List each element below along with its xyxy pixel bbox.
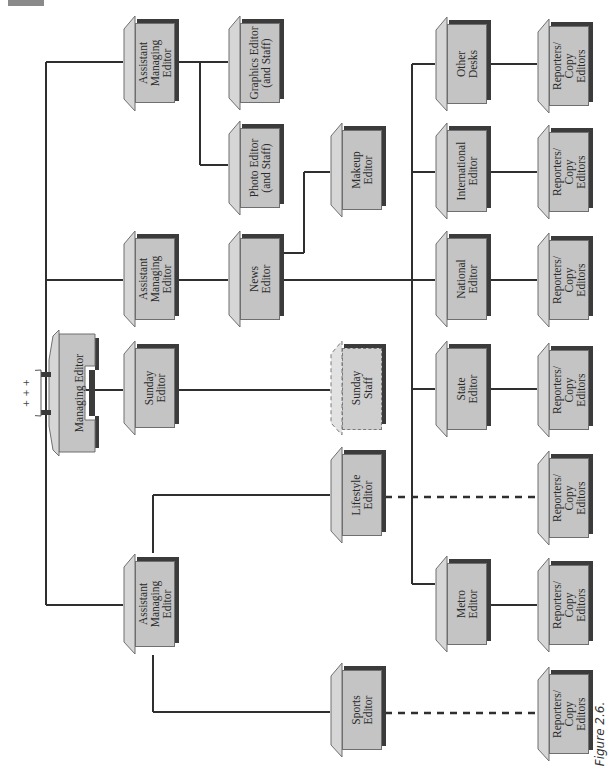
desk-side xyxy=(228,120,242,216)
node-label: State Editor xyxy=(455,375,479,404)
typewriter-icon: + + + xyxy=(11,370,41,416)
node-sports-editor[interactable]: Sports Editor xyxy=(330,662,386,758)
node-label: News Editor xyxy=(248,265,272,294)
desk-side xyxy=(330,122,344,218)
node-label: Reporters/ Copy Editors xyxy=(551,256,587,304)
node-label: Assistant Managing Editor xyxy=(137,256,173,303)
desk-side xyxy=(123,230,137,328)
node-lifestyle-editor[interactable]: Lifestyle Editor xyxy=(330,446,386,544)
node-label: Sports Editor xyxy=(350,695,374,724)
node-label: Managing Editor xyxy=(73,354,85,432)
node-label: Reporters/ Copy Editors xyxy=(551,690,587,738)
node-assistant-managing-editor-mid[interactable]: Assistant Managing Editor xyxy=(123,230,179,328)
node-photo-editor[interactable]: Photo Editor (and Staff) xyxy=(228,120,284,216)
desk-side xyxy=(537,232,551,328)
desk-side xyxy=(537,342,551,438)
desk-side xyxy=(435,555,449,653)
node-sunday-editor[interactable]: Sunday Editor xyxy=(123,340,179,436)
node-managing-editor[interactable]: + + + Managing Editor xyxy=(35,330,101,456)
desk-side xyxy=(123,340,137,436)
desk-side xyxy=(537,124,551,220)
typewriter-keys: + + + xyxy=(21,379,31,407)
node-metro-editor[interactable]: Metro Editor xyxy=(435,555,491,653)
node-assistant-managing-editor-bottom[interactable]: Assistant Managing Editor xyxy=(123,553,179,655)
node-graphics-editor[interactable]: Graphics Editor (and Staff) xyxy=(228,15,284,111)
managing-editor-desk-shape xyxy=(35,330,101,456)
node-label: Reporters/ Copy Editors xyxy=(551,148,587,196)
node-label: Reporters/ Copy Editors xyxy=(551,366,587,414)
desk-side xyxy=(435,340,449,438)
node-state-editor[interactable]: State Editor xyxy=(435,340,491,438)
node-label: National Editor xyxy=(455,259,479,299)
node-label: Makeup Editor xyxy=(350,151,374,189)
figure-caption-text: Figure 2.6. xyxy=(593,702,607,767)
desk-side xyxy=(435,122,449,220)
node-reporters-copy-editors-7[interactable]: Reporters/ Copy Editors xyxy=(537,666,593,762)
desk-side xyxy=(537,666,551,762)
node-national-editor[interactable]: National Editor xyxy=(435,230,491,328)
node-label: International Editor xyxy=(455,142,479,201)
node-label: Graphics Editor (and Staff) xyxy=(248,26,272,99)
node-reporters-copy-editors-4[interactable]: Reporters/ Copy Editors xyxy=(537,342,593,438)
desk-side xyxy=(123,15,137,112)
desk-side xyxy=(330,340,344,436)
desk-side xyxy=(330,662,344,758)
node-label: Assistant Managing Editor xyxy=(137,40,173,87)
node-reporters-copy-editors-5[interactable]: Reporters/ Copy Editors xyxy=(537,450,593,546)
node-sunday-staff[interactable]: Sunday Staff xyxy=(330,340,386,436)
desk-side xyxy=(228,230,242,328)
node-label: Metro Editor xyxy=(455,590,479,619)
desk-side xyxy=(228,15,242,111)
desk-side xyxy=(123,553,137,655)
desk-side xyxy=(537,557,551,653)
node-assistant-managing-editor-top[interactable]: Assistant Managing Editor xyxy=(123,15,179,112)
node-label: Sunday Editor xyxy=(143,371,167,406)
node-reporters-copy-editors-6[interactable]: Reporters/ Copy Editors xyxy=(537,557,593,653)
desk-side xyxy=(330,446,344,544)
desk-side xyxy=(435,230,449,328)
node-label: Reporters/ Copy Editors xyxy=(551,42,587,90)
desk-side xyxy=(537,450,551,546)
node-other-desks[interactable]: Other Desks xyxy=(435,16,491,112)
node-label: Reporters/ Copy Editors xyxy=(551,581,587,629)
node-news-editor[interactable]: News Editor xyxy=(228,230,284,328)
node-reporters-copy-editors-3[interactable]: Reporters/ Copy Editors xyxy=(537,232,593,328)
node-label: Reporters/ Copy Editors xyxy=(551,474,587,522)
desk-side xyxy=(435,16,449,112)
figure-caption: Figure 2.6. xyxy=(590,700,610,768)
node-reporters-copy-editors-2[interactable]: Reporters/ Copy Editors xyxy=(537,124,593,220)
node-label: Assistant Managing Editor xyxy=(137,581,173,628)
node-reporters-copy-editors-1[interactable]: Reporters/ Copy Editors xyxy=(537,18,593,114)
node-label: Sunday Staff xyxy=(350,371,374,406)
node-label: Photo Editor (and Staff) xyxy=(248,139,272,197)
node-makeup-editor[interactable]: Makeup Editor xyxy=(330,122,386,218)
node-label: Lifestyle Editor xyxy=(350,475,374,516)
node-label: Other Desks xyxy=(455,50,479,78)
node-international-editor[interactable]: International Editor xyxy=(435,122,491,220)
desk-side xyxy=(537,18,551,114)
